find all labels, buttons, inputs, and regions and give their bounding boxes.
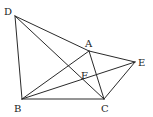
label-B: B [14,103,21,114]
segment-DA [15,16,89,51]
geometry-diagram: D A E F B C [0,0,153,117]
label-C: C [101,103,109,114]
label-F: F [81,70,88,81]
label-D: D [4,6,12,17]
segment-DB [15,16,22,99]
segment-AE [89,51,135,62]
segment-BE [22,62,135,99]
label-A: A [84,38,93,49]
label-E: E [138,57,145,68]
